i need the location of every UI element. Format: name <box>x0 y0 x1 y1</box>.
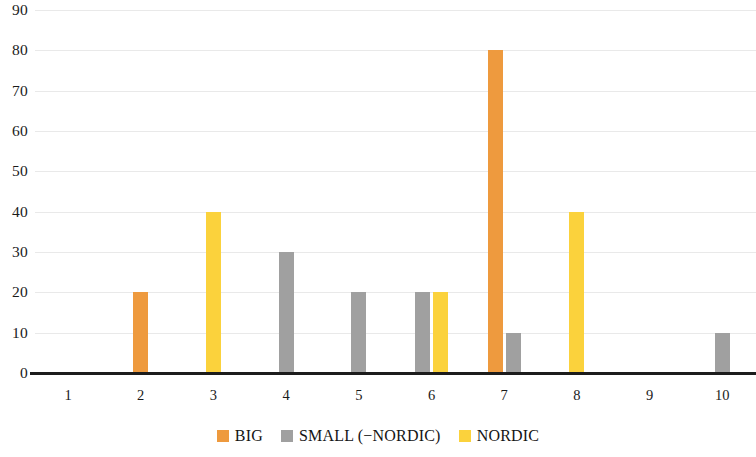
x-axis-line <box>30 372 756 375</box>
legend-entry: SMALL (−NORDIC) <box>281 428 441 444</box>
bar <box>415 292 430 373</box>
bar <box>715 333 730 373</box>
bar <box>279 252 294 373</box>
bars-layer <box>0 10 756 373</box>
x-axis-tick-label: 8 <box>557 388 597 403</box>
legend-label: SMALL (−NORDIC) <box>299 428 441 444</box>
bar <box>506 333 521 373</box>
bar <box>206 212 221 373</box>
bar <box>133 292 148 373</box>
legend-entry: BIG <box>217 428 263 444</box>
legend-swatch-icon <box>217 430 229 442</box>
chart-legend: BIGSMALL (−NORDIC)NORDIC <box>0 428 756 444</box>
legend-entry: NORDIC <box>459 428 540 444</box>
x-axis-tick-label: 10 <box>702 388 742 403</box>
legend-swatch-icon <box>459 430 471 442</box>
x-axis-tick-label: 9 <box>630 388 670 403</box>
x-axis-tick-label: 6 <box>412 388 452 403</box>
x-axis-tick-label: 7 <box>484 388 524 403</box>
x-axis-tick-label: 5 <box>339 388 379 403</box>
x-axis-tick-label: 1 <box>48 388 88 403</box>
bar-chart: 0102030405060708090 12345678910 BIGSMALL… <box>0 0 756 457</box>
legend-label: BIG <box>235 428 263 444</box>
bar <box>569 212 584 373</box>
x-axis-tick-label: 2 <box>121 388 161 403</box>
bar <box>351 292 366 373</box>
x-axis-tick-label: 3 <box>193 388 233 403</box>
bar <box>433 292 448 373</box>
legend-label: NORDIC <box>477 428 540 444</box>
legend-swatch-icon <box>281 430 293 442</box>
x-axis-tick-label: 4 <box>266 388 306 403</box>
bar <box>488 50 503 373</box>
